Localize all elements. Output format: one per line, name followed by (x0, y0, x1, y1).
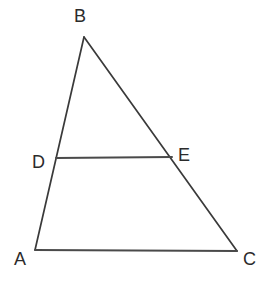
segment-de (56, 157, 172, 158)
segment-ac (35, 250, 237, 251)
vertex-label-b: B (74, 7, 86, 25)
vertex-label-a: A (14, 250, 26, 268)
triangle-diagram-svg (0, 0, 269, 291)
geometry-figure: B A C D E (0, 0, 269, 291)
triangle-outline (35, 37, 237, 251)
vertex-label-c: C (243, 250, 256, 268)
segment-ab (35, 37, 84, 250)
segment-bc (84, 37, 237, 251)
vertex-label-d: D (32, 153, 45, 171)
vertex-label-e: E (178, 146, 190, 164)
